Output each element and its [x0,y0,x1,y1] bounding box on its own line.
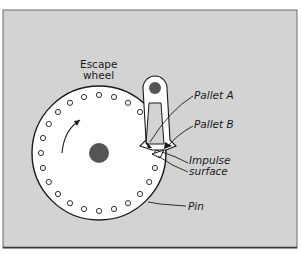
pin [67,201,72,206]
pin [46,179,51,184]
pin [147,179,152,184]
pin [67,100,72,105]
pin [46,121,51,126]
pin [152,165,157,170]
pin [40,135,45,140]
pin [81,206,86,211]
wheel-hub [89,143,109,163]
pin [137,109,142,114]
pin [125,100,130,105]
label-impulse-2: surface [189,165,228,177]
pin [111,94,116,99]
pin [137,191,142,196]
label-pallet-a: Pallet A [194,89,234,101]
pin [125,201,130,206]
pin [81,94,86,99]
pin [96,92,101,97]
escapement-diagram: Escape wheel Pallet A Pallet B Impulse s… [0,0,301,254]
label-pallet-b: Pallet B [194,118,234,130]
pin [96,208,101,213]
label-pin: Pin [188,200,204,212]
pin [55,109,60,114]
pin [111,206,116,211]
pin [40,165,45,170]
pin [38,150,43,155]
pin [55,191,60,196]
label-escape-wheel-2: wheel [83,69,114,81]
pallet-pivot [149,82,161,94]
